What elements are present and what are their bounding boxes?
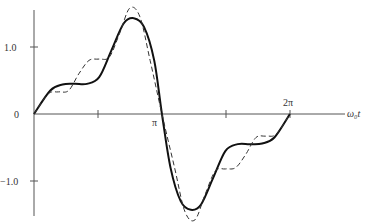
chart: 1.0 0 −1.0 π 2π ω₀t <box>0 0 367 224</box>
x-axis-label: ω₀t <box>347 108 361 119</box>
y-label-0: 0 <box>14 109 19 120</box>
y-label-1: 1.0 <box>4 42 17 53</box>
y-label-neg1: −1.0 <box>0 176 18 187</box>
x-label-pi: π <box>152 117 157 128</box>
x-label-2pi: 2π <box>283 97 293 108</box>
